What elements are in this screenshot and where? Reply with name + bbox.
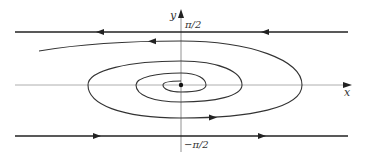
y-lower-tick-label: −π/2 [184, 139, 209, 150]
y-upper-tick-label: π/2 [184, 19, 201, 30]
y-axis-label: y [169, 9, 177, 22]
lower-separatrix-line [15, 133, 348, 139]
spiral-trajectory [39, 38, 302, 120]
x-axis-label: x [344, 86, 351, 99]
equilibrium-point [179, 83, 183, 87]
y-axis-arrow-icon [178, 9, 184, 18]
arrow-left-icon [148, 38, 156, 44]
upper-separatrix-line [15, 29, 348, 35]
phase-portrait: y π/2 x −π/2 [0, 0, 368, 163]
arrow-right-icon [258, 133, 266, 139]
arrow-left-icon [96, 29, 104, 35]
arrow-left-icon [261, 29, 269, 35]
arrow-right-icon [209, 115, 217, 121]
arrow-right-icon [93, 133, 101, 139]
